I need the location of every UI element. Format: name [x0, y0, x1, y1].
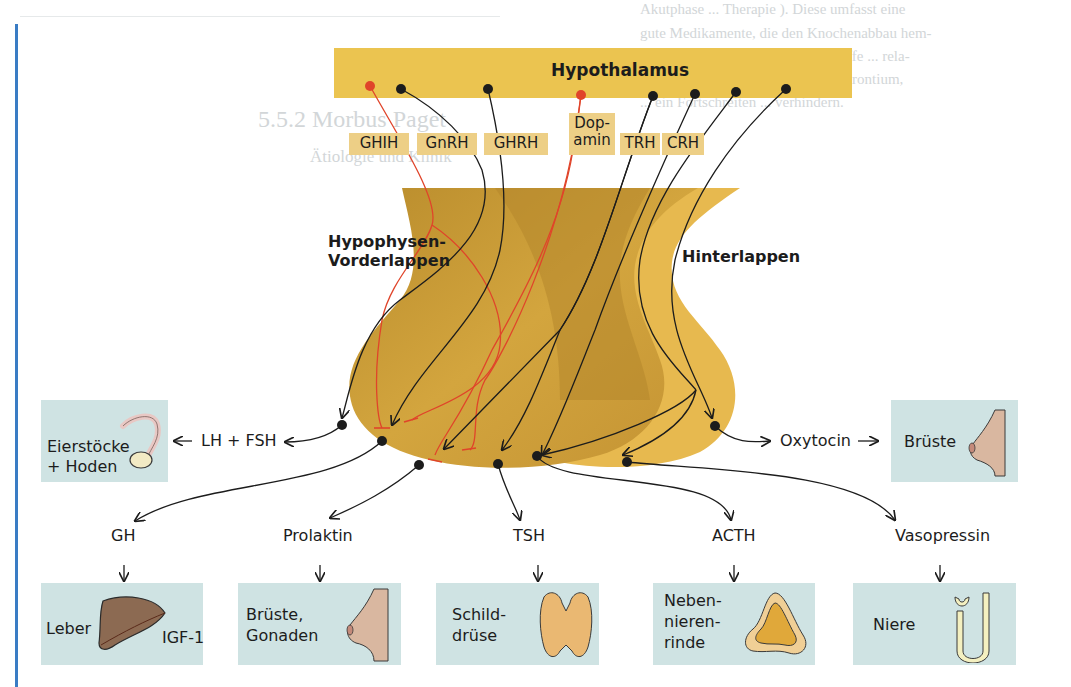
organ-box-schilddruese: Schild- drüse: [436, 583, 599, 665]
organ-box-brueste: Brüste: [891, 400, 1018, 482]
hormone-oxytocin: Oxytocin: [780, 431, 851, 450]
organ-label-line3: rinde: [664, 633, 705, 653]
organ-box-nebenniere: Neben- nieren- rinde: [653, 583, 815, 665]
organ-box-brueste-gonaden: Brüste, Gonaden: [238, 583, 401, 665]
rh-box-dopamin-line2: amin: [572, 132, 612, 149]
hormone-vasopressin: Vasopressin: [895, 526, 990, 545]
organ-label-line2: Gonaden: [246, 626, 318, 646]
organ-box-eierstoecke: Eierstöcke + Hoden: [41, 400, 168, 482]
organ-label-line2: drüse: [452, 626, 497, 646]
rh-box-dopamin: Dop- amin: [569, 113, 615, 155]
rh-box-gnrh: GnRH: [417, 133, 477, 155]
organ-label-line1: Neben-: [664, 591, 722, 611]
hormone-gh: GH: [111, 526, 135, 545]
hormone-prolaktin: Prolaktin: [283, 526, 353, 545]
liver-icon: [95, 593, 167, 653]
hormone-tsh: TSH: [513, 526, 545, 545]
organ-label: Niere: [873, 615, 915, 635]
hormone-lh-fsh: LH + FSH: [201, 431, 277, 450]
organ-box-niere: Niere: [853, 583, 1016, 665]
adrenal-icon: [741, 589, 811, 659]
rh-box-crh: CRH: [662, 133, 704, 155]
rh-box-ghih: GHIH: [349, 133, 409, 155]
igf1-label: IGF-1: [162, 628, 204, 648]
posterior-lobe-label: Hinterlappen: [682, 247, 800, 266]
thyroid-icon: [536, 587, 596, 663]
organ-box-leber: Leber IGF-1: [41, 583, 203, 665]
organ-label-line2: nieren-: [664, 612, 720, 632]
rh-box-ghrh: GHRH: [484, 133, 548, 155]
organ-label-line1: Schild-: [452, 605, 506, 625]
organ-label-line1: Eierstöcke: [47, 437, 130, 457]
ovary-icon: [119, 410, 167, 470]
anterior-lobe-label: Hypophysen- Vorderlappen: [328, 232, 450, 270]
rh-box-dopamin-line1: Dop-: [572, 115, 612, 132]
rh-box-trh: TRH: [620, 133, 660, 155]
organ-label-line1: Brüste,: [246, 605, 303, 625]
organ-label: Leber: [46, 619, 91, 639]
breast-icon: [967, 408, 1007, 478]
anterior-lobe-label-line2: Vorderlappen: [328, 251, 450, 270]
organ-label-line2: + Hoden: [47, 457, 117, 477]
organ-label: Brüste: [904, 432, 956, 452]
breast-icon: [344, 587, 390, 663]
anterior-lobe-label-line1: Hypophysen-: [328, 232, 450, 251]
nephron-icon: [953, 587, 993, 663]
hypothalamus-label: Hypothalamus: [551, 61, 689, 80]
hormone-acth: ACTH: [712, 526, 756, 545]
